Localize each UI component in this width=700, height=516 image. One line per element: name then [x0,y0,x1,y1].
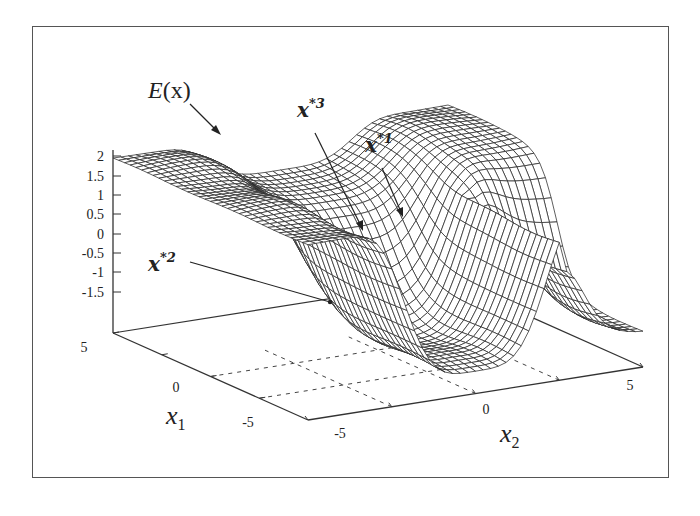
z-tick-labels: 21.510.50-0.5-1-1.5 [82,149,104,300]
x2-tick-label: 0 [483,402,490,417]
x2-tick-label: -5 [334,426,346,441]
z-tick-label: -0.5 [82,246,104,261]
z-axis [113,150,121,333]
x2-axis-title: x2 [499,419,520,451]
x1-tick-label: 0 [173,380,180,395]
floor-ticks [113,332,643,420]
x1-axis-title: x1 [165,401,186,433]
z-tick-label: 1.5 [87,169,105,184]
x2-tick-label: 5 [627,378,634,393]
x1-tick-label: 5 [81,340,88,355]
energy-arrow [190,104,221,135]
min3-label: x*3 [296,96,325,122]
z-tick-label: 0 [97,227,104,242]
z-tick-label: 2 [97,149,104,164]
z-ticks [113,156,121,292]
z-tick-label: 0.5 [87,207,105,222]
z-tick-label: 1 [97,188,104,203]
min2-label: x*2 [147,250,176,276]
x1-tick-label: -5 [242,415,254,430]
z-tick-label: -1 [92,265,104,280]
x2-tick-labels: -505 [334,378,633,441]
surface-plot: 21.510.50-0.5-1-1.5 50-5 -505 x1 x2 E(x)… [0,0,700,516]
energy-label: E(x) [147,77,191,103]
z-tick-label: -1.5 [82,285,104,300]
